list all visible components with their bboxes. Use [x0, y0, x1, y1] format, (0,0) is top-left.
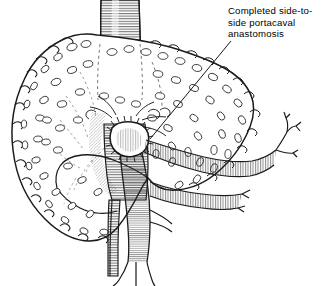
anastomosis-label: Completed side-to-side portacaval anasto…	[228, 5, 324, 40]
medical-illustration-figure: Completed side-to-side portacaval anasto…	[0, 0, 327, 286]
liver-anastomosis-diagram	[0, 0, 327, 286]
